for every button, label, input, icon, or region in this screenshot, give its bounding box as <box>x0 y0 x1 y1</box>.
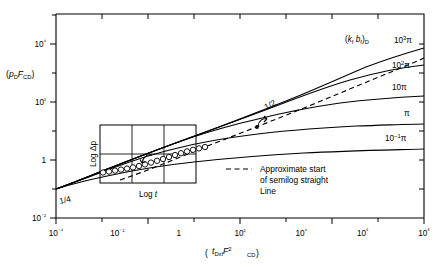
curve-labels: 103π 102π 10π π 10−1π <box>385 35 412 143</box>
y-axis-ticks <box>50 15 424 218</box>
legend-line-3: Line <box>260 186 276 196</box>
x-tick-label-5: 10⁶ <box>357 228 369 238</box>
legend: Approximate start of semilog straight Li… <box>226 164 329 196</box>
svg-text:(kf bf)D: (kf bf)D <box>345 35 369 45</box>
inset-x-label: Log t <box>139 190 158 199</box>
inset-data-points <box>100 144 207 175</box>
curve-label-10e3pi: 103π <box>394 35 412 45</box>
data-curves <box>56 48 424 189</box>
x-tick-label-1: 10⁻² <box>110 228 124 238</box>
curve-label-10pi: 10π <box>392 83 407 92</box>
x-tick-label-4: 10⁴ <box>295 228 307 238</box>
x-tick-label-6: 10⁸ <box>418 228 430 238</box>
parameter-label: (kf bf)D <box>345 35 369 45</box>
y-tick-label-3: 10⁴ <box>34 39 46 49</box>
semilog-start-dashed-curve <box>120 58 424 180</box>
svg-text:): ) <box>256 248 259 258</box>
curve-label-pi: π <box>404 109 410 118</box>
dashed-reference-line <box>120 58 424 180</box>
svg-text:tDxfF2: tDxfF2 <box>212 246 232 257</box>
legend-line-2: of semilog straight <box>260 175 329 185</box>
svg-text:(pDFCD): (pDFCD) <box>6 69 34 80</box>
y-tick-label-1: 1 <box>41 156 46 165</box>
chart-svg: (pDFCD) ( tDxfF2 CD ) 1/4 1/2 <box>0 0 441 268</box>
x-tick-label-2: 1 <box>176 229 181 238</box>
svg-text:1/4: 1/4 <box>58 194 72 206</box>
inset-y-label: Log Δp <box>89 141 98 167</box>
x-tick-label-3: 10² <box>234 228 245 238</box>
y-tick-labels-generated: 10⁻²110²10⁴ <box>32 39 47 223</box>
legend-line-1: Approximate start <box>260 164 326 174</box>
svg-text:(: ( <box>205 248 208 258</box>
chart-figure: (pDFCD) ( tDxfF2 CD ) 1/4 1/2 <box>0 0 441 268</box>
y-tick-label-2: 10² <box>35 97 46 107</box>
y-axis-title: (pDFCD) <box>6 69 34 80</box>
annotation-quarter-slope: 1/4 <box>58 194 72 206</box>
svg-text:CD: CD <box>247 252 255 258</box>
y-tick-label-0: 10⁻² <box>32 213 46 223</box>
half-slope-dot <box>255 125 259 129</box>
x-tick-labels-generated: 10⁻⁴10⁻²110²10⁴10⁶10⁸ <box>49 228 431 238</box>
curve-label-10em1pi: 10−1π <box>385 133 407 143</box>
x-axis-title: ( tDxfF2 CD ) <box>205 246 259 258</box>
x-tick-label-0: 10⁻⁴ <box>49 228 64 238</box>
